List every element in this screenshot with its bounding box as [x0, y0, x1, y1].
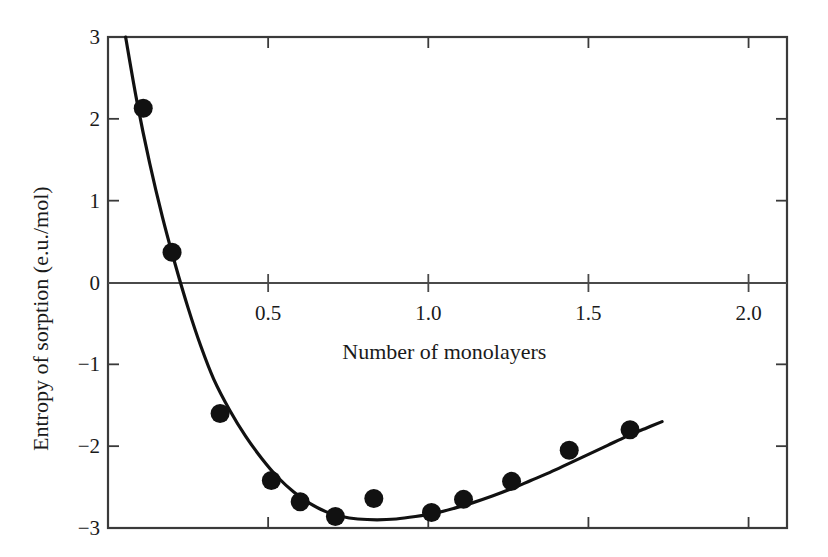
y-tick-label: 0 — [62, 272, 100, 293]
data-point — [364, 489, 383, 508]
data-point — [163, 243, 182, 262]
data-point — [211, 404, 230, 423]
data-point — [422, 503, 441, 522]
y-tick-label: 2 — [62, 108, 100, 129]
y-tick-label: −2 — [62, 436, 100, 457]
x-axis-title: Number of monolayers — [342, 339, 546, 365]
data-point — [621, 420, 640, 439]
y-tick-label: −3 — [62, 518, 100, 539]
x-tick-label: 0.5 — [255, 303, 281, 324]
data-point — [326, 507, 345, 526]
data-point — [134, 99, 153, 118]
figure-root: 0.51.01.52.03210−1−2−3 Number of monolay… — [0, 0, 828, 557]
y-tick-label: −1 — [62, 354, 100, 375]
data-point — [560, 441, 579, 460]
data-point — [454, 490, 473, 509]
data-points — [134, 99, 640, 526]
x-tick-label: 2.0 — [735, 303, 761, 324]
data-point — [291, 492, 310, 511]
fit-curve-path — [126, 37, 662, 520]
y-tick-label: 1 — [62, 190, 100, 211]
y-axis-title: Entropy of sorption (e.u./mol) — [28, 186, 54, 451]
chart-canvas — [0, 0, 828, 557]
fit-curve — [126, 37, 662, 520]
x-tick-label: 1.0 — [415, 303, 441, 324]
x-tick-label: 1.5 — [575, 303, 601, 324]
data-point — [262, 471, 281, 490]
y-tick-label: 3 — [62, 27, 100, 48]
data-point — [502, 472, 521, 491]
